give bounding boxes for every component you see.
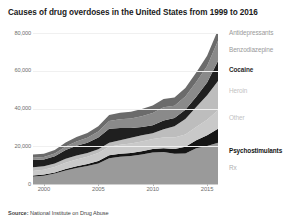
x-tick-mark: [153, 184, 154, 186]
x-tick-label: 2010: [146, 186, 159, 192]
legend-label-antidepressants[interactable]: Antidepressants: [229, 29, 273, 36]
gridline: [33, 146, 218, 147]
legend-label-psychostimulants[interactable]: Psychostimulants: [229, 147, 282, 154]
x-tick-mark: [98, 184, 99, 186]
legend-label-heroin[interactable]: Heroin: [229, 87, 247, 94]
y-tick-label: 80,000: [1, 30, 31, 36]
legend-label-cocaine[interactable]: Cocaine: [229, 66, 253, 73]
gridline: [33, 71, 218, 72]
source-text: National Institute on Drug Abuse: [30, 210, 109, 216]
x-tick-label: 2000: [38, 186, 51, 192]
y-tick-label: 60,000: [1, 67, 31, 73]
gridline: [33, 109, 218, 110]
plot-area: [33, 33, 218, 184]
x-tick-label: 2005: [92, 186, 105, 192]
y-axis: 020,00040,00060,00080,000: [0, 0, 31, 224]
source-note: Source: National Institute on Drug Abuse: [8, 210, 109, 216]
x-axis-baseline: [33, 184, 218, 185]
x-tick-mark: [207, 184, 208, 186]
page-title: Causes of drug overdoses in the United S…: [8, 8, 298, 18]
legend-label-benzodiazepine[interactable]: Benzodiazepine: [229, 46, 273, 53]
gridline: [33, 33, 218, 34]
legend-label-other[interactable]: Other: [229, 114, 244, 121]
x-tick-label: 2015: [201, 186, 214, 192]
x-axis: 2000200520102015: [33, 186, 218, 198]
y-tick-label: 20,000: [1, 143, 31, 149]
chart-container: Causes of drug overdoses in the United S…: [0, 0, 305, 224]
y-tick-label: 0: [1, 181, 31, 187]
source-prefix: Source:: [8, 210, 28, 216]
x-tick-mark: [44, 184, 45, 186]
y-tick-label: 40,000: [1, 105, 31, 111]
legend-label-rx[interactable]: Rx: [229, 164, 237, 171]
